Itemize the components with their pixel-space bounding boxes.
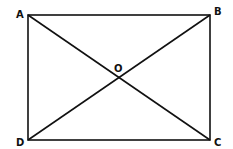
label-a: A bbox=[16, 9, 24, 20]
label-d: D bbox=[16, 137, 24, 148]
label-c: C bbox=[214, 137, 221, 148]
label-o: O bbox=[114, 63, 123, 74]
label-b: B bbox=[214, 6, 222, 17]
rectangle-diagram: A B C D O bbox=[0, 0, 233, 149]
